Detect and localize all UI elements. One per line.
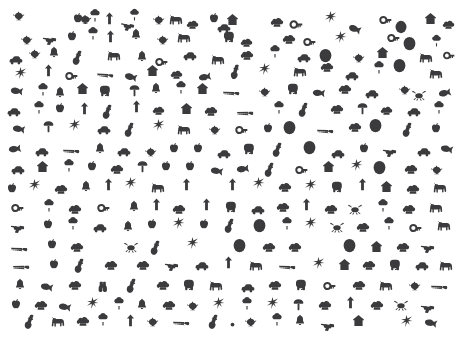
bush-icon: [356, 220, 370, 234]
bush-icon: [240, 48, 254, 62]
teapot-icon: [20, 34, 33, 47]
bush-icon: [110, 162, 124, 176]
bush-icon: [204, 104, 218, 118]
house-icon: [380, 180, 393, 193]
car-icon: [416, 144, 431, 159]
apple-icon: [358, 142, 370, 154]
tree-icon: [66, 216, 80, 230]
bird-icon: [186, 236, 200, 250]
bird-icon: [152, 118, 166, 132]
car-icon: [414, 258, 429, 273]
fish-icon: [11, 121, 27, 137]
lamp-icon: [232, 238, 247, 253]
lamp-icon: [302, 140, 317, 155]
car-icon: [34, 144, 49, 159]
guitar-icon: [119, 121, 140, 142]
tree-icon: [32, 100, 46, 114]
bird-icon: [350, 158, 364, 172]
fish-icon: [122, 68, 139, 85]
tree-icon: [112, 296, 126, 310]
apple-icon: [48, 258, 60, 270]
arrow-icon: [42, 64, 55, 77]
saw-icon: [221, 83, 242, 104]
car-icon: [116, 144, 131, 159]
bush-icon: [282, 32, 296, 46]
tree-icon: [128, 8, 141, 21]
horse-icon: [106, 48, 122, 64]
bird-icon: [212, 296, 226, 310]
apple-icon: [46, 238, 58, 250]
bush-icon: [162, 298, 176, 312]
bush-icon: [404, 162, 418, 176]
teapot-icon: [28, 48, 41, 61]
lamp-icon: [282, 120, 297, 135]
horse-icon: [50, 314, 66, 330]
bird-icon: [334, 30, 348, 44]
saw-icon: [277, 257, 298, 278]
horse-icon: [432, 180, 448, 196]
car-icon: [250, 202, 265, 217]
bush-icon: [370, 298, 384, 312]
apple-icon: [6, 182, 18, 194]
bush-icon: [318, 298, 332, 312]
guitar-icon: [69, 257, 90, 278]
tree-icon: [372, 60, 386, 74]
key-icon: [320, 278, 336, 294]
bush-icon: [320, 60, 334, 74]
teapot-icon: [156, 34, 169, 47]
bush-icon: [34, 298, 48, 312]
bird-icon: [258, 62, 272, 76]
key-icon: [384, 30, 400, 46]
apple-icon: [72, 12, 84, 24]
lamp-icon: [372, 160, 387, 175]
bush-icon: [324, 202, 338, 216]
elephant-icon: [242, 142, 256, 156]
tree-icon: [86, 26, 100, 40]
tree-icon: [382, 216, 396, 230]
bird-icon: [304, 178, 318, 192]
saw-icon: [10, 256, 31, 277]
car-icon: [92, 220, 107, 235]
tree-icon: [174, 80, 188, 94]
horse-icon: [176, 122, 192, 138]
apple-icon: [10, 298, 22, 310]
crab-icon: [348, 202, 362, 216]
bush-icon: [352, 278, 366, 292]
tree-icon: [268, 44, 282, 58]
mushroom-icon: [136, 160, 149, 173]
elephant-icon: [286, 82, 300, 96]
revolver-icon: [319, 317, 337, 335]
crab-icon: [330, 220, 344, 234]
key-icon: [300, 34, 316, 50]
arrow-icon: [222, 256, 235, 269]
car-icon: [6, 104, 21, 119]
bell-icon: [150, 82, 162, 94]
guitar-icon: [19, 313, 40, 334]
car-icon: [182, 48, 197, 63]
horse-icon: [150, 180, 166, 196]
teapot-icon: [430, 164, 443, 177]
teapot-icon: [146, 316, 159, 329]
arrow-icon: [130, 100, 143, 113]
bell-icon: [130, 28, 142, 40]
car-icon: [364, 86, 379, 101]
arrow-icon: [104, 30, 117, 43]
bell-icon: [136, 298, 148, 310]
car-icon: [240, 280, 255, 295]
fish-icon: [9, 83, 25, 99]
apple-icon: [86, 160, 98, 172]
arrow-icon: [180, 178, 193, 191]
revolver-icon: [381, 143, 399, 161]
apple-icon: [184, 160, 196, 172]
tree-icon: [88, 8, 102, 22]
bush-icon: [68, 278, 82, 292]
elephant-icon: [224, 200, 238, 214]
bush-icon: [396, 240, 410, 254]
fish-icon: [7, 141, 23, 157]
bush-icon: [348, 120, 362, 134]
lamp-icon: [402, 36, 417, 51]
tree-icon: [272, 100, 286, 114]
fish-icon: [346, 20, 364, 38]
key-icon: [286, 16, 303, 33]
fish-icon: [437, 85, 454, 102]
